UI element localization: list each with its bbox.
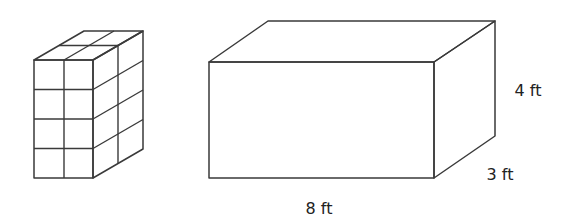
length-label: 8 ft: [306, 199, 333, 218]
large-box: [209, 21, 495, 178]
unit-cube-prism: [34, 31, 143, 178]
diagram-canvas: [0, 0, 569, 224]
height-label: 4 ft: [515, 81, 542, 100]
box-side-face: [434, 21, 495, 178]
box-top-face: [209, 21, 495, 62]
width-label: 3 ft: [487, 165, 514, 184]
box-front-face: [209, 62, 434, 178]
